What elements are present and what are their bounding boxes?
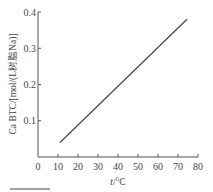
chart: 0.10.20.30.4 01020304050607080 Ca BTC/[m…: [0, 0, 213, 192]
x-tick-label: 40: [113, 161, 123, 172]
x-tick-label: 0: [36, 161, 41, 172]
y-tick-label: 0.1: [24, 115, 37, 126]
x-tick-label: 20: [73, 161, 83, 172]
x-tick-label: 30: [93, 161, 103, 172]
data-line: [60, 19, 187, 142]
y-tick-label: 0.4: [24, 7, 37, 18]
y-tick-label: 0.2: [24, 79, 37, 90]
x-tick-label: 60: [153, 161, 163, 172]
x-tick-label: 50: [133, 161, 143, 172]
x-tick-label: 70: [173, 161, 183, 172]
y-axis-label: Ca BTC/[mol/(L树脂Na)]: [7, 34, 19, 135]
x-axis-label: t/°C: [110, 177, 125, 187]
x-tick-label: 80: [193, 161, 203, 172]
y-tick-label: 0.3: [24, 43, 37, 54]
x-tick-label: 10: [53, 161, 63, 172]
